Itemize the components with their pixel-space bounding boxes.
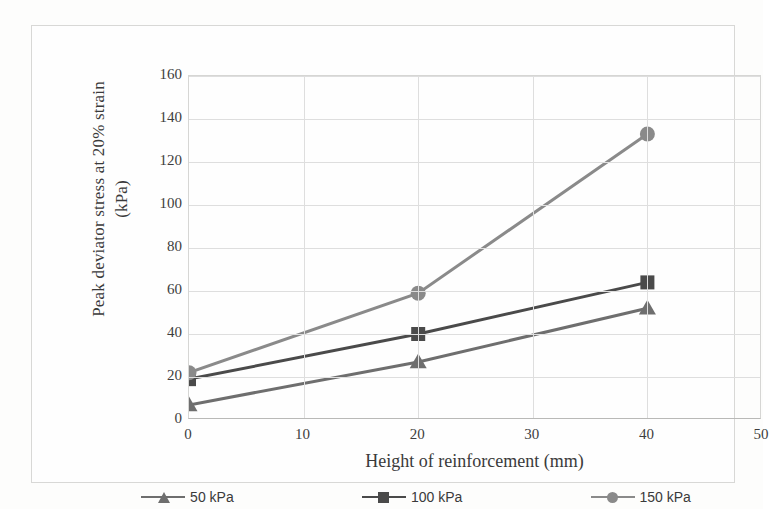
y-tick-label: 80 <box>134 239 182 254</box>
y-axis-title: Peak deviator stress at 20% strain (kPa) <box>88 54 134 344</box>
gridline-horizontal <box>189 162 760 163</box>
legend-item[interactable]: 50 kPa <box>141 489 234 505</box>
y-axis-title-line2: (kPa) <box>111 54 134 344</box>
legend-swatch-triangle <box>141 490 185 504</box>
square-marker-icon <box>378 492 389 503</box>
x-tick-label: 0 <box>168 427 208 442</box>
triangle-marker-icon <box>158 492 170 503</box>
chart-legend: 50 kPa100 kPa150 kPa <box>77 485 755 509</box>
x-tick-label: 40 <box>626 427 666 442</box>
gridline-vertical <box>304 76 305 418</box>
plot-area <box>188 75 761 419</box>
y-tick-label: 40 <box>134 325 182 340</box>
x-axis-tick-labels: 01020304050 <box>188 427 761 447</box>
legend-label: 150 kPa <box>640 489 691 505</box>
y-tick-label: 20 <box>134 368 182 383</box>
y-axis-title-line1: Peak deviator stress at 20% strain <box>88 54 111 344</box>
legend-swatch-circle <box>591 490 635 504</box>
x-tick-label: 20 <box>397 427 437 442</box>
legend-label: 50 kPa <box>190 489 234 505</box>
y-tick-label: 120 <box>134 153 182 168</box>
chart-container: Peak deviator stress at 20% strain (kPa)… <box>31 25 735 483</box>
x-axis-title: Height of reinforcement (mm) <box>188 451 761 472</box>
gridline-vertical <box>418 76 419 418</box>
gridline-horizontal <box>189 76 760 77</box>
x-tick-label: 10 <box>283 427 323 442</box>
legend-item[interactable]: 150 kPa <box>591 489 691 505</box>
y-tick-label: 100 <box>134 196 182 211</box>
gridline-horizontal <box>189 334 760 335</box>
gridline-horizontal <box>189 377 760 378</box>
gridline-horizontal <box>189 205 760 206</box>
gridline-horizontal <box>189 248 760 249</box>
gridline-vertical <box>647 76 648 418</box>
gridline-vertical <box>533 76 534 418</box>
x-tick-label: 30 <box>512 427 552 442</box>
gridline-horizontal <box>189 291 760 292</box>
x-tick-label: 50 <box>741 427 773 442</box>
legend-label: 100 kPa <box>411 489 462 505</box>
legend-item[interactable]: 100 kPa <box>362 489 462 505</box>
y-tick-label: 140 <box>134 110 182 125</box>
y-axis-tick-labels: 020406080100120140160 <box>132 75 182 419</box>
gridline-horizontal <box>189 119 760 120</box>
y-tick-label: 160 <box>134 67 182 82</box>
y-tick-label: 60 <box>134 282 182 297</box>
circle-marker-icon <box>607 492 618 503</box>
y-tick-label: 0 <box>134 411 182 426</box>
legend-swatch-square <box>362 490 406 504</box>
